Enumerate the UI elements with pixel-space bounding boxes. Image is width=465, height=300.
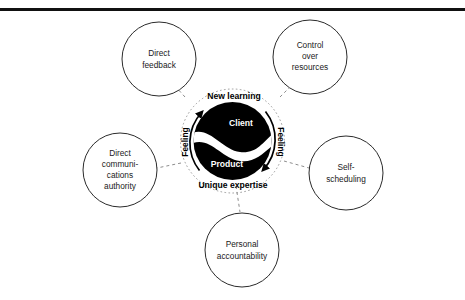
connector-direct-communications-authority <box>157 163 181 168</box>
satellite-label-line: feedback <box>142 60 177 70</box>
satellite-label-line: over <box>302 51 318 61</box>
ring-top-label: New learning <box>207 91 260 101</box>
figure-root: Client Product New learning Unique exper… <box>0 0 465 300</box>
core-lower-label: Product <box>211 159 244 169</box>
satellite-label-line: Direct <box>148 48 170 58</box>
satellite-label-line: Direct <box>109 148 131 158</box>
core-upper-label: Client <box>229 118 253 128</box>
diagram-canvas: Client Product New learning Unique exper… <box>0 0 465 300</box>
ring-bottom-label: Unique expertise <box>198 180 267 190</box>
satellite-circle[interactable] <box>205 213 279 287</box>
satellite-label-line: scheduling <box>326 174 366 184</box>
side-label-right: Feeling <box>276 127 286 156</box>
satellite-self-scheduling[interactable]: Self- scheduling <box>309 136 383 210</box>
satellite-label-line: Personal <box>226 239 259 249</box>
satellite-label-line: accountability <box>217 251 268 261</box>
satellite-label-line: cations <box>107 170 133 180</box>
satellite-circle[interactable] <box>122 22 196 96</box>
side-label-left: Feeling <box>180 127 190 156</box>
satellite-direct-communications-authority[interactable]: Direct communi- cations authority <box>83 133 157 207</box>
satellite-control-over-resources[interactable]: Control over resources <box>273 20 347 94</box>
satellite-circle[interactable] <box>309 136 383 210</box>
satellite-label-line: communi- <box>102 159 139 169</box>
satellite-label-line: resources <box>292 62 328 72</box>
satellite-label-line: Control <box>297 40 324 50</box>
satellite-personal-accountability[interactable]: Personal accountability <box>205 213 279 287</box>
connector-self-scheduling <box>284 161 309 168</box>
satellite-label-line: Self- <box>337 162 354 172</box>
satellite-direct-feedback[interactable]: Direct feedback <box>122 22 196 96</box>
satellite-label-line: authority <box>104 181 137 191</box>
